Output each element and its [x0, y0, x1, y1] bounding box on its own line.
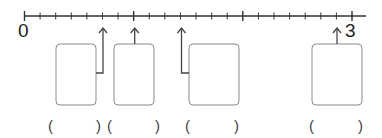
- answer-slot-2-open: (: [107, 118, 112, 133]
- answer-slot-4-close: ): [358, 118, 363, 133]
- connector-3: [182, 29, 190, 73]
- end-label: 3: [345, 21, 356, 40]
- answer-box-1[interactable]: [56, 44, 96, 105]
- connector-1: [96, 29, 103, 73]
- answer-box-2[interactable]: [114, 44, 154, 105]
- answer-slot-4-open: (: [309, 118, 314, 133]
- answer-box-3[interactable]: [189, 44, 239, 105]
- answer-box-4[interactable]: [312, 44, 362, 105]
- answer-slot-3-close: ): [234, 118, 239, 133]
- number-line-diagram: 0 3 ( ) ( ) ( ) ( ): [0, 0, 382, 138]
- answer-slot-3-open: (: [185, 118, 190, 133]
- start-label: 0: [18, 21, 29, 40]
- diagram-canvas: [0, 0, 382, 138]
- answer-slot-1-open: (: [48, 118, 53, 133]
- answer-slot-2-close: ): [155, 118, 160, 133]
- answer-slot-1-close: ): [96, 118, 101, 133]
